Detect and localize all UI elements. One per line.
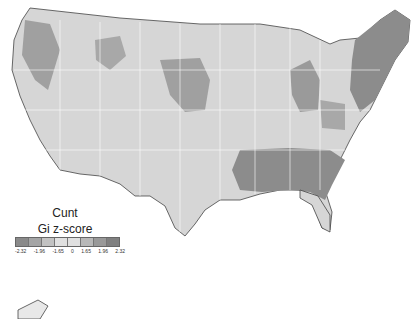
legend-swatch — [29, 238, 42, 246]
legend-tick: -2.32 — [15, 248, 26, 254]
legend-swatch — [16, 238, 29, 246]
legend-color-bar — [15, 237, 120, 247]
alaska-fragment — [18, 300, 48, 319]
legend-tick: -1.65 — [52, 248, 63, 254]
legend-title: Cunt — [0, 206, 130, 220]
legend-swatch — [94, 238, 107, 246]
legend-swatch — [42, 238, 55, 246]
us-outline — [12, 8, 410, 236]
legend-tick: 0 — [71, 248, 74, 254]
legend-swatch — [81, 238, 94, 246]
legend-tick: 2.32 — [115, 248, 125, 254]
legend-tick: 1.96 — [98, 248, 108, 254]
legend-swatch — [68, 238, 81, 246]
legend-tick: -1.96 — [34, 248, 45, 254]
us-map — [0, 0, 418, 319]
legend-swatch — [107, 238, 119, 246]
legend-tick: 1.65 — [81, 248, 91, 254]
ohio-hotspot — [320, 100, 345, 130]
northeast-hotspot — [350, 10, 410, 112]
legend-swatch — [55, 238, 68, 246]
legend-subtitle: Gi z-score — [0, 222, 130, 236]
legend-ticks: -2.32 -1.96 -1.65 0 1.65 1.96 2.32 — [15, 248, 125, 254]
